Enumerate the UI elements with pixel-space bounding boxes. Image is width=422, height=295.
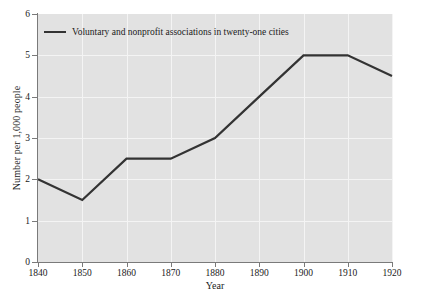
y-tick-mark: [32, 14, 37, 15]
x-tick-mark: [38, 263, 39, 267]
x-tick-label: 1880: [194, 268, 236, 279]
y-tick-mark: [32, 221, 37, 222]
x-tick-label: 1900: [283, 268, 325, 279]
y-tick-mark: [32, 262, 37, 263]
x-tick-mark: [127, 263, 128, 267]
x-tick-mark: [215, 263, 216, 267]
y-axis-title: Number per 1,000 people: [10, 14, 24, 262]
x-tick-mark: [392, 263, 393, 267]
plot-area: [38, 14, 392, 262]
x-tick-label: 1860: [106, 268, 148, 279]
x-tick-label: 1920: [371, 268, 413, 279]
x-tick-mark: [259, 263, 260, 267]
legend-label: Voluntary and nonprofit associations in …: [72, 26, 289, 38]
gridline-vertical: [392, 14, 393, 262]
x-tick-mark: [171, 263, 172, 267]
y-axis-line: [37, 13, 38, 263]
x-tick-label: 1910: [327, 268, 369, 279]
y-tick-mark: [32, 97, 37, 98]
line-chart-figure: 0123456 18401850186018701880189019001910…: [0, 0, 422, 295]
legend: Voluntary and nonprofit associations in …: [44, 26, 289, 38]
x-tick-label: 1870: [150, 268, 192, 279]
legend-line-swatch: [44, 31, 66, 33]
x-tick-label: 1840: [17, 268, 59, 279]
y-tick-mark: [32, 179, 37, 180]
x-tick-mark: [348, 263, 349, 267]
series-line-voluntary-associations: [38, 55, 392, 200]
x-tick-mark: [82, 263, 83, 267]
x-tick-label: 1850: [61, 268, 103, 279]
x-tick-label: 1890: [238, 268, 280, 279]
y-tick-mark: [32, 55, 37, 56]
x-tick-mark: [304, 263, 305, 267]
data-line-layer: [38, 14, 392, 262]
x-axis-title: Year: [38, 280, 392, 292]
y-tick-mark: [32, 138, 37, 139]
